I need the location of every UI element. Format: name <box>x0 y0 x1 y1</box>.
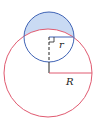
right-angle-marker <box>49 37 54 42</box>
small-radius-label: r <box>59 39 65 50</box>
large-radius-label: R <box>65 76 74 87</box>
two-circles-diagram: r R <box>0 0 98 122</box>
